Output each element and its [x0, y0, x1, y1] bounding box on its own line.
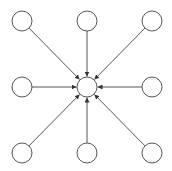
edge-bottom-right-to-center [94, 94, 145, 145]
node-bottom-right [142, 143, 162, 163]
node-middle-left [12, 77, 32, 97]
node-top-left [12, 11, 32, 31]
node-top-center [77, 11, 97, 31]
star-graph-diagram [0, 0, 172, 171]
edge-top-left-to-center [29, 28, 80, 79]
node-center [77, 77, 97, 97]
node-top-right [142, 11, 162, 31]
edge-top-right-to-center [94, 28, 145, 79]
node-bottom-left [12, 143, 32, 163]
node-bottom-center [77, 143, 97, 163]
edge-bottom-left-to-center [29, 94, 80, 145]
node-middle-right [142, 77, 162, 97]
